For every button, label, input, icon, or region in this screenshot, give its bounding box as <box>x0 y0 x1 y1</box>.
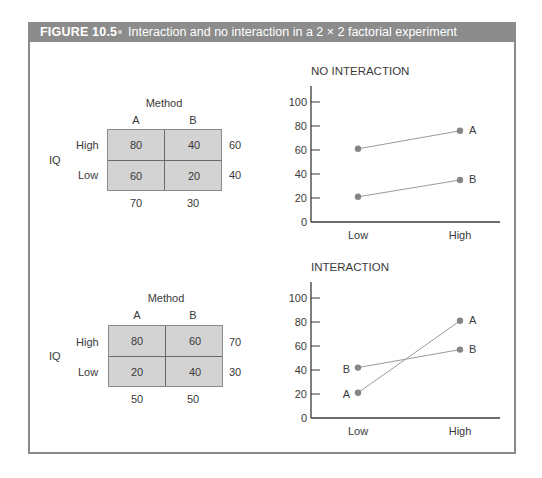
y-tick-label: 0 <box>301 216 307 228</box>
series-label-b: B <box>469 343 476 355</box>
data-point <box>457 346 463 352</box>
x-tick-label: Low <box>348 425 368 437</box>
y-tick-label: 20 <box>295 192 307 204</box>
plot-area: 020406080100LowHighAB <box>289 86 500 241</box>
data-point <box>355 146 361 152</box>
data-point <box>355 390 361 396</box>
y-tick-label: 100 <box>289 292 307 304</box>
series-line-b <box>358 180 460 197</box>
series-label-a: A <box>343 388 351 400</box>
series-label-a: A <box>469 314 477 326</box>
y-tick-label: 100 <box>289 96 307 108</box>
chart-no-interaction: 020406080100LowHighAB 020406080100LowHig… <box>0 0 542 478</box>
series-line-a <box>358 131 460 149</box>
series-label-a: A <box>469 124 477 136</box>
y-tick-label: 80 <box>295 120 307 132</box>
series-label-b: B <box>469 173 476 185</box>
y-tick-label: 60 <box>295 340 307 352</box>
x-tick-label: High <box>449 425 472 437</box>
data-point <box>457 128 463 134</box>
x-tick-label: High <box>449 229 472 241</box>
y-tick-label: 60 <box>295 144 307 156</box>
series-line-b <box>358 350 460 368</box>
data-point <box>457 318 463 324</box>
y-tick-label: 20 <box>295 388 307 400</box>
data-point <box>457 177 463 183</box>
y-tick-label: 0 <box>301 412 307 424</box>
series-label-b: B <box>343 363 350 375</box>
y-tick-label: 40 <box>295 168 307 180</box>
y-tick-label: 80 <box>295 316 307 328</box>
data-point <box>355 194 361 200</box>
y-tick-label: 40 <box>295 364 307 376</box>
data-point <box>355 364 361 370</box>
x-tick-label: Low <box>348 229 368 241</box>
series-line-a <box>358 321 460 393</box>
plot-area: 020406080100LowHighAABB <box>289 282 500 437</box>
chart-title-interaction: INTERACTION <box>311 261 389 273</box>
